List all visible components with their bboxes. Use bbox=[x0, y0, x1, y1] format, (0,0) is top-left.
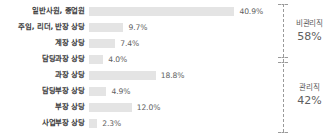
bar-fill bbox=[89, 87, 106, 96]
group-bracket-tick-middle-upper bbox=[278, 57, 288, 58]
group-bracket-tick-top bbox=[278, 4, 288, 5]
group-annotation-managerial: 관리직 42% bbox=[289, 82, 330, 108]
bar-fill bbox=[89, 103, 132, 112]
category-label: 부장 상당 bbox=[0, 102, 89, 112]
bar-value-label: 18.8% bbox=[156, 71, 185, 80]
category-label: 사업부장 상당 bbox=[0, 118, 89, 128]
horizontal-bar-chart: 일반사원, 종업원 40.9% 주임, 리더, 반장 상당 9.7% 계장 상당… bbox=[0, 0, 330, 136]
bar-row: 주임, 리더, 반장 상당 9.7% bbox=[0, 19, 283, 35]
bar-track: 9.7% bbox=[89, 19, 283, 35]
bar-value-label: 7.4% bbox=[115, 39, 139, 48]
bar-value-label: 9.7% bbox=[123, 23, 147, 32]
bar-track: 40.9% bbox=[89, 3, 283, 19]
bar-track: 7.4% bbox=[89, 35, 283, 51]
bar-fill bbox=[89, 39, 115, 48]
group-percent: 58% bbox=[289, 30, 330, 44]
bar-row: 과장 상당 18.8% bbox=[0, 67, 283, 83]
bar-fill bbox=[89, 7, 234, 16]
bar-row: 담당과장 상당 4.0% bbox=[0, 51, 283, 67]
bar-row: 사업부장 상당 2.3% bbox=[0, 115, 283, 131]
category-label: 담당부장 상당 bbox=[0, 86, 89, 96]
category-label: 일반사원, 종업원 bbox=[0, 6, 89, 16]
bar-row: 일반사원, 종업원 40.9% bbox=[0, 3, 283, 19]
bar-track: 2.3% bbox=[89, 115, 283, 131]
category-label: 계장 상당 bbox=[0, 38, 89, 48]
bar-fill bbox=[89, 55, 103, 64]
bar-row: 계장 상당 7.4% bbox=[0, 35, 283, 51]
bar-value-label: 2.3% bbox=[97, 119, 121, 128]
category-label: 과장 상당 bbox=[0, 70, 89, 80]
category-label: 주임, 리더, 반장 상당 bbox=[0, 22, 89, 32]
group-percent: 42% bbox=[289, 94, 330, 108]
bar-track: 12.0% bbox=[89, 99, 283, 115]
bar-value-label: 4.0% bbox=[103, 55, 127, 64]
bar-value-label: 12.0% bbox=[132, 103, 161, 112]
category-label: 담당과장 상당 bbox=[0, 54, 89, 64]
bar-fill bbox=[89, 71, 156, 80]
group-bracket-divider bbox=[283, 4, 284, 132]
bar-value-label: 40.9% bbox=[234, 7, 263, 16]
group-bracket-tick-bottom bbox=[278, 132, 288, 133]
bar-track: 4.0% bbox=[89, 51, 283, 67]
bar-track: 4.9% bbox=[89, 83, 283, 99]
bar-row: 담당부장 상당 4.9% bbox=[0, 83, 283, 99]
bar-value-label: 4.9% bbox=[106, 87, 130, 96]
bar-fill bbox=[89, 23, 123, 32]
group-annotation-nonmanagerial: 비관리직 58% bbox=[289, 18, 330, 44]
bar-rows: 일반사원, 종업원 40.9% 주임, 리더, 반장 상당 9.7% 계장 상당… bbox=[0, 3, 283, 131]
bar-track: 18.8% bbox=[89, 67, 283, 83]
group-bracket-tick-middle-lower bbox=[278, 62, 288, 63]
group-name: 비관리직 bbox=[289, 18, 330, 29]
bar-row: 부장 상당 12.0% bbox=[0, 99, 283, 115]
group-name: 관리직 bbox=[289, 82, 330, 93]
bar-fill bbox=[89, 119, 97, 128]
